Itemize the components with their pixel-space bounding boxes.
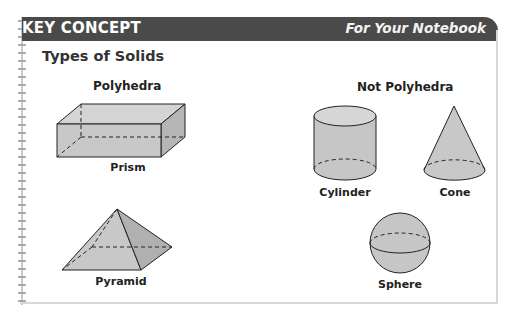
- page-title: Types of Solids: [42, 48, 164, 64]
- pyramid-label: Pyramid: [86, 275, 156, 288]
- card-border-right: [496, 30, 498, 304]
- rectangular-prism-icon: [57, 104, 187, 160]
- for-your-notebook-label: For Your Notebook: [346, 20, 486, 36]
- sphere-icon: [369, 212, 431, 274]
- cone-label: Cone: [425, 186, 485, 199]
- polyhedra-heading: Polyhedra: [93, 79, 161, 93]
- cylinder-icon: [313, 105, 377, 183]
- key-concept-label: KEY CONCEPT: [22, 19, 141, 37]
- prism-label: Prism: [98, 161, 158, 174]
- not-polyhedra-heading: Not Polyhedra: [357, 80, 453, 94]
- sphere-label: Sphere: [370, 278, 430, 291]
- card-border-bottom: [20, 302, 498, 304]
- spiral-binding: [16, 17, 28, 305]
- cylinder-label: Cylinder: [314, 186, 376, 199]
- cone-icon: [423, 106, 487, 184]
- square-pyramid-icon: [62, 209, 174, 271]
